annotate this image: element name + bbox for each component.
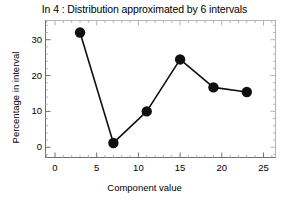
data-point-marker xyxy=(108,138,118,148)
y-tick-label: 20 xyxy=(18,71,42,81)
data-series-line xyxy=(80,33,247,143)
y-tick-label: 10 xyxy=(18,106,42,116)
y-tick-labels: 0102030 xyxy=(14,20,42,158)
x-tick-label: 10 xyxy=(123,163,153,173)
x-tick-label: 0 xyxy=(40,163,70,173)
x-tick-label: 25 xyxy=(248,163,278,173)
chart-title: In 4 : Distribution approximated by 6 in… xyxy=(0,3,289,15)
data-point-marker xyxy=(242,87,252,97)
x-tick-label: 15 xyxy=(165,163,195,173)
x-tick-label: 20 xyxy=(207,163,237,173)
data-point-marker xyxy=(75,27,85,37)
x-axis-title: Component value xyxy=(0,182,289,193)
data-point-marker xyxy=(175,54,185,64)
plot-area xyxy=(45,20,276,158)
plot-canvas xyxy=(45,20,276,158)
x-tick-labels: 0510152025 xyxy=(45,163,276,177)
x-tick-label: 5 xyxy=(82,163,112,173)
y-tick-label: 0 xyxy=(18,142,42,152)
y-tick-label: 30 xyxy=(18,35,42,45)
data-point-markers xyxy=(75,27,252,148)
chart-figure: In 4 : Distribution approximated by 6 in… xyxy=(0,0,289,202)
data-point-marker xyxy=(208,82,218,92)
data-point-marker xyxy=(142,106,152,116)
